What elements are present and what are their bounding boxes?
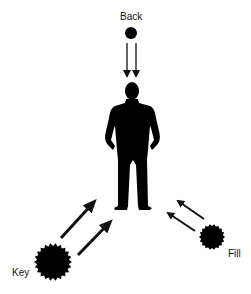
- person-silhouette-icon: [105, 82, 160, 210]
- lighting-diagram: [0, 0, 251, 294]
- back-light-label: Back: [120, 11, 142, 22]
- fill-arrow-2: [168, 213, 195, 231]
- fill-light-label: Fill: [228, 248, 241, 259]
- key-arrow-2: [78, 222, 110, 255]
- fill-light-icon: [199, 224, 225, 250]
- fill-arrow-1: [178, 201, 204, 219]
- key-light-label: Key: [12, 267, 29, 278]
- key-light-icon: [34, 243, 72, 281]
- key-arrow-1: [61, 202, 94, 238]
- fillburst-edge: [199, 224, 225, 250]
- back-light-icon: [125, 27, 137, 39]
- keyburst-edge: [34, 243, 72, 281]
